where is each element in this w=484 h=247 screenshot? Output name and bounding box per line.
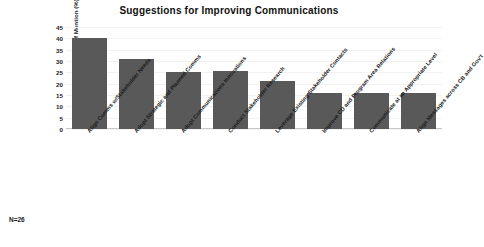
y-axis-tick-label: 25 <box>56 69 63 76</box>
chart-title: Suggestions for Improving Communications <box>0 5 458 16</box>
bar[interactable] <box>213 71 249 129</box>
gridline <box>66 129 442 130</box>
y-axis-tick-label: 30 <box>56 57 63 64</box>
y-axis-tick-label: 10 <box>56 103 63 110</box>
sample-size-note: N=26 <box>9 216 25 223</box>
y-axis-tick-label: 0 <box>60 126 63 133</box>
y-axis-tick-label: 40 <box>56 35 63 42</box>
bar[interactable] <box>166 72 202 129</box>
y-axis-tick-label: 20 <box>56 80 63 87</box>
plot-area: Frequency of Mention (%) 454035302520151… <box>66 27 442 129</box>
y-axis-tick-label: 45 <box>56 24 63 31</box>
y-axis-tick-label: 15 <box>56 91 63 98</box>
y-axis-tick-label: 35 <box>56 46 63 53</box>
y-axis-tick-label: 5 <box>60 114 63 121</box>
